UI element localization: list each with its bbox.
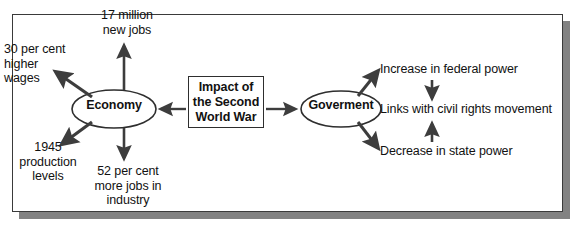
central-node-label: Impact of the Second World War xyxy=(188,80,264,125)
label-higher-wages: 30 per cent higher wages xyxy=(4,42,80,86)
label-production-levels: 1945 production levels xyxy=(12,140,84,184)
label-industry-jobs: 52 per cent more jobs in industry xyxy=(82,164,174,208)
label-federal-power: Increase in federal power xyxy=(380,62,540,77)
label-state-power: Decrease in state power xyxy=(380,144,530,159)
edge-government-to-state-power xyxy=(358,122,378,148)
label-new-jobs: 17 million new jobs xyxy=(88,8,166,37)
diagram-page: Impact of the Second World War Economy G… xyxy=(0,0,577,231)
economy-node-label: Economy xyxy=(76,98,152,113)
edge-government-to-federal-power xyxy=(358,71,378,96)
label-civil-rights: Links with civil rights movement xyxy=(380,102,570,117)
government-node-label: Goverment xyxy=(303,98,379,113)
